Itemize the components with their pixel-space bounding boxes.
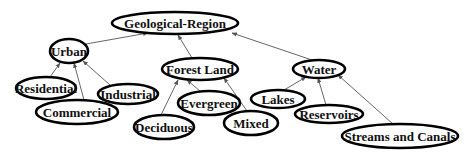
node-lakes: Lakes (251, 90, 305, 108)
node-evergreen: Evergreen (178, 91, 240, 115)
edge-forest-to-root (178, 35, 192, 58)
node-label-water: Water (302, 62, 337, 77)
nodes-layer: Geological-RegionUrbanForest LandWaterRe… (15, 12, 458, 148)
node-industrial: Industrial (98, 84, 158, 104)
node-label-residential: Residential (15, 81, 78, 96)
node-label-forest: Forest Land (166, 62, 235, 77)
node-residential: Residential (15, 77, 78, 99)
node-mixed: Mixed (224, 111, 278, 135)
node-label-mixed: Mixed (233, 116, 269, 131)
node-label-commercial: Commercial (43, 105, 112, 120)
node-label-deciduous: Deciduous (135, 120, 193, 135)
node-label-industrial: Industrial (100, 87, 156, 102)
node-label-streams: Streams and Canals (344, 129, 455, 144)
node-streams: Streams and Canals (342, 124, 458, 148)
node-label-lakes: Lakes (261, 92, 294, 107)
node-reservoirs: Reservoirs (295, 105, 363, 123)
node-root: Geological-Region (112, 12, 238, 34)
edge-water-to-root (232, 33, 312, 60)
edge-evergreen-to-forest (187, 80, 200, 91)
edge-deciduous-to-forest (161, 80, 178, 115)
node-label-urban: Urban (51, 44, 88, 59)
node-label-evergreen: Evergreen (180, 96, 238, 111)
geological-region-tree-diagram: Geological-RegionUrbanForest LandWaterRe… (0, 0, 467, 156)
node-label-reservoirs: Reservoirs (299, 107, 358, 122)
node-label-root: Geological-Region (124, 16, 227, 31)
node-urban: Urban (50, 39, 88, 63)
edge-residential-to-urban (50, 63, 60, 77)
node-deciduous: Deciduous (134, 115, 194, 139)
node-commercial: Commercial (36, 100, 118, 124)
edge-industrial-to-urban (83, 61, 110, 85)
node-forest: Forest Land (162, 58, 238, 80)
edge-lakes-to-water (284, 77, 306, 90)
node-water: Water (293, 60, 345, 78)
edge-urban-to-root (86, 33, 148, 44)
edge-reservoirs-to-water (318, 78, 326, 105)
